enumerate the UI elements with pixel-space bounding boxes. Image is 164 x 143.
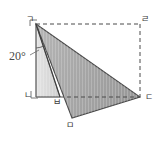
vertex-label-bieup: ㅂ	[53, 98, 61, 107]
geometry-svg	[0, 0, 164, 143]
vertex-label-mieum: ㅁ	[66, 121, 74, 130]
vertex-label-giyeok: ㄱ	[26, 15, 34, 24]
vertex-label-rieul: ㄹ	[141, 15, 149, 24]
vertex-label-digeut: ㄷ	[145, 93, 153, 102]
geometry-figure-canvas: ㄱ ㄹ ㄴ ㄷ ㅂ ㅁ 20°	[0, 0, 164, 143]
angle-measure-label: 20°	[9, 50, 26, 62]
vertex-label-nieun: ㄴ	[24, 91, 32, 100]
